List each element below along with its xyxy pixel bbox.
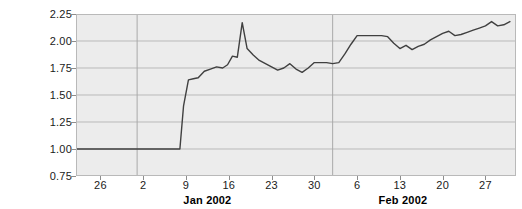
x-axis-tick-mark — [272, 176, 273, 180]
x-axis-tick-mark — [485, 176, 486, 180]
x-axis-tick-label: 23 — [252, 180, 292, 191]
x-axis-tick-mark — [229, 176, 230, 180]
x-axis-tick-mark — [400, 176, 401, 180]
x-axis: 26291623306132027Jan 2002Feb 2002 — [0, 0, 522, 209]
x-axis-month-label: Feb 2002 — [343, 195, 463, 206]
x-axis-tick-mark — [314, 176, 315, 180]
x-axis-tick-label: 27 — [465, 180, 505, 191]
x-axis-tick-label: 9 — [166, 180, 206, 191]
x-axis-tick-label: 13 — [380, 180, 420, 191]
x-axis-tick-label: 26 — [80, 180, 120, 191]
x-axis-tick-label: 6 — [337, 180, 377, 191]
x-axis-tick-mark — [186, 176, 187, 180]
x-axis-tick-mark — [357, 176, 358, 180]
x-axis-month-label: Jan 2002 — [147, 195, 267, 206]
x-axis-tick-label: 16 — [209, 180, 249, 191]
x-axis-tick-mark — [443, 176, 444, 180]
x-axis-tick-mark — [143, 176, 144, 180]
line-chart: 0.751.001.251.501.752.002.25 26291623306… — [0, 0, 522, 209]
x-axis-tick-label: 30 — [294, 180, 334, 191]
x-axis-tick-mark — [100, 176, 101, 180]
x-axis-tick-label: 2 — [123, 180, 163, 191]
x-axis-tick-label: 20 — [423, 180, 463, 191]
